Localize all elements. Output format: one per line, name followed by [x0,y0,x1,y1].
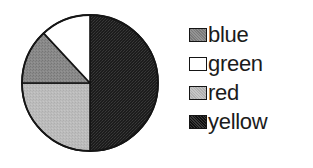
legend-swatch-red-icon [189,86,207,100]
legend-label-green: green [208,53,263,75]
pie-chart-svg [0,0,180,168]
pie-chart-figure: blue green red yellow [0,0,313,168]
legend-label-red: red [208,82,239,104]
legend-item-green[interactable]: green [189,51,263,77]
legend-item-yellow[interactable]: yellow [189,109,267,135]
legend-label-blue: blue [208,24,248,46]
legend-item-blue[interactable]: blue [189,22,248,48]
legend-label-yellow: yellow [208,111,267,133]
pie-slice-yellow [90,15,158,151]
legend-swatch-green-icon [189,57,207,71]
chart-legend: blue green red yellow [189,22,313,162]
pie-slice-red [22,83,90,151]
legend-swatch-blue-icon [189,28,207,42]
legend-item-red[interactable]: red [189,80,239,106]
pie-chart-plot-area [0,0,180,168]
legend-swatch-yellow-icon [189,115,207,129]
